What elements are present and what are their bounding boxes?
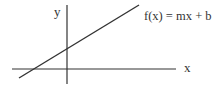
function-label: f(x) = mx + b: [144, 9, 212, 23]
x-axis-label: x: [184, 60, 191, 75]
y-axis-label: y: [54, 4, 61, 19]
function-line: [19, 5, 139, 78]
linear-function-diagram: y x f(x) = mx + b: [0, 0, 217, 88]
